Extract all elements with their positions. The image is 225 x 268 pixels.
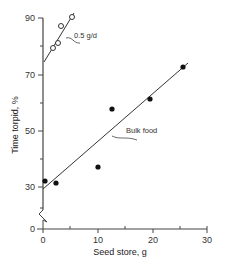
annotation-0-5-gd: 0.5 g/d: [74, 31, 97, 40]
y-tick-label: 50: [25, 126, 35, 136]
chart-canvas: 90 70 50 30 0 0 10 20 30 Seed store, g T…: [0, 0, 225, 268]
annotation-leader-bulk-food: [112, 136, 137, 140]
fit-line-0-5-gd: [44, 13, 74, 62]
x-tick-label: 20: [148, 235, 158, 245]
y-axis-break-icon: [39, 210, 47, 229]
y-ticks: [38, 18, 43, 208]
x-tick-label: 30: [202, 235, 212, 245]
series-bulk-food-points: [42, 64, 185, 185]
y-tick-label: 70: [25, 70, 35, 80]
x-axis-label: Seed store, g: [93, 247, 147, 257]
y-axis-label: Time torpid, %: [10, 96, 20, 154]
y-tick-label: 90: [25, 13, 35, 23]
y-tick-label: 0: [30, 224, 35, 234]
x-tick-label: 10: [93, 235, 103, 245]
annotation-bulk-food: Bulk food: [126, 126, 157, 135]
fit-line-bulk-food: [43, 63, 188, 189]
y-tick-label: 30: [25, 182, 35, 192]
x-tick-label: 0: [40, 235, 45, 245]
